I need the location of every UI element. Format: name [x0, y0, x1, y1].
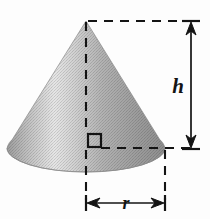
- cone-body: [0, 0, 210, 219]
- radius-label: r: [122, 193, 130, 213]
- height-dimension-line: [182, 21, 200, 149]
- cone-diagram-canvas: h r: [0, 0, 210, 219]
- cone-figure: h r: [0, 0, 210, 219]
- cone-halftone-texture: [0, 0, 210, 219]
- height-label: h: [172, 74, 184, 98]
